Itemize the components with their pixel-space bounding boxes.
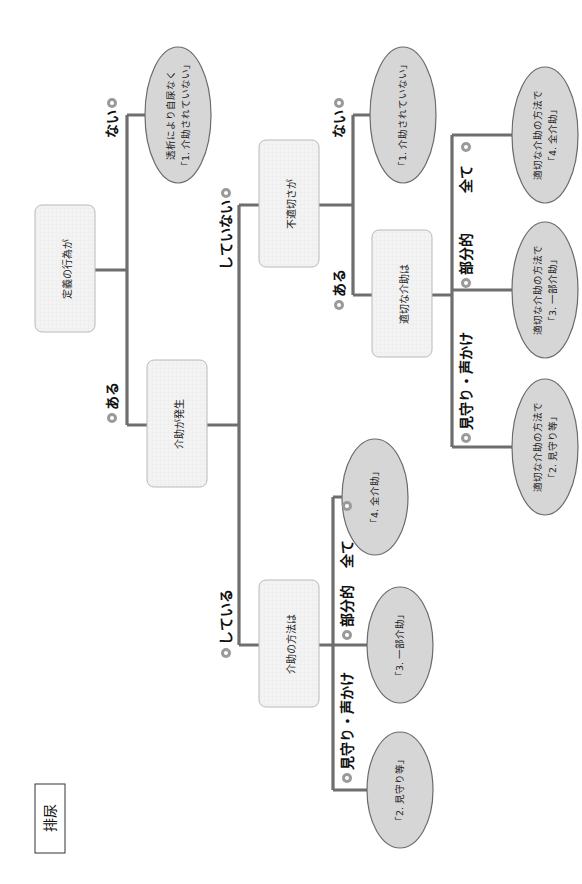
result-line-1: 「3. 一部介助」 [394, 609, 405, 681]
svg-text:部分的: 部分的 [339, 585, 355, 627]
branch-label-q1-no: ない [104, 98, 120, 138]
question-box-q3: 不適切さが [259, 140, 319, 267]
title-box: 排尿 [35, 784, 65, 853]
result-full: 「4. 全介助」 [342, 439, 408, 555]
branch-label-q2-yes: している [218, 589, 234, 658]
connector-q1 [95, 115, 147, 425]
branch-label-q4-watch: 見守り・声かけ [339, 672, 355, 783]
branch-label-q3-no: ない [331, 98, 347, 138]
decision-tree-diagram: 定義の行為が 介助が発生 不適切さが 介助の方法は 適切な介助は 透析により自尿… [0, 0, 582, 884]
result-line-2: 「4. 全介助」 [547, 104, 558, 166]
svg-text:ある: ある [104, 382, 120, 410]
question-text: 不適切さが [285, 179, 297, 229]
result-line-1: 適切な介助の方法で [532, 402, 543, 492]
svg-text:見守り・声かけ: 見守り・声かけ [458, 332, 474, 431]
result-line-1: 「2. 見守り等」 [394, 754, 405, 826]
branch-label-q2-no: していない [218, 188, 234, 270]
result-line-1: 「4. 全介助」 [369, 466, 380, 528]
result-line-1: 適切な介助の方法で [532, 245, 543, 335]
question-box-q4: 介助の方法は [259, 580, 319, 707]
result-dialysis: 透析により自尿なく 「1. 介助されていない」 [145, 47, 211, 183]
svg-text:ある: ある [331, 269, 347, 297]
branch-label-q5-full: 全て [458, 142, 474, 194]
branch-label-q5-watch: 見守り・声かけ [458, 332, 474, 443]
svg-text:ない: ない [104, 110, 120, 138]
result-appropriate-full: 適切な介助の方法で 「4. 全介助」 [512, 67, 578, 203]
svg-text:全て: 全て [339, 540, 355, 569]
result-appropriate-partial: 適切な介助の方法で 「3. 一部介助」 [512, 222, 578, 358]
result-line-1: 透析により自尿なく [165, 70, 176, 160]
question-box-q2: 介助が発生 [147, 360, 207, 487]
result-line-1: 「1. 介助されていない」 [397, 59, 408, 171]
result-line-2: 「2. 見守り等」 [547, 411, 558, 483]
title-text: 排尿 [42, 804, 58, 832]
result-appropriate-watch: 適切な介助の方法で 「2. 見守り等」 [512, 379, 578, 515]
svg-text:見守り・声かけ: 見守り・声かけ [339, 672, 355, 771]
question-text: 介助の方法は [285, 614, 297, 674]
question-box-q1: 定義の行為が [35, 205, 95, 332]
question-box-q5: 適切な介助は [372, 230, 432, 357]
question-text: 適切な介助は [398, 264, 410, 324]
svg-text:全て: 全て [458, 165, 474, 194]
question-text: 介助が発生 [173, 399, 185, 449]
result-partial: 「3. 一部介助」 [367, 587, 433, 703]
svg-text:していない: していない [218, 200, 234, 270]
result-line-1: 適切な介助の方法で [532, 90, 543, 180]
result-not-assisted: 「1. 介助されていない」 [370, 47, 436, 183]
result-line-2: 「1. 介助されていない」 [180, 59, 191, 171]
connector-q2 [207, 205, 259, 645]
question-text: 定義の行為が [61, 239, 73, 299]
branch-label-q3-yes: ある [331, 269, 347, 310]
branch-label-q5-partial: 部分的 [458, 233, 474, 288]
svg-text:部分的: 部分的 [458, 233, 474, 275]
svg-text:している: している [218, 589, 234, 645]
branch-label-q1-yes: ある [104, 382, 120, 423]
connector-q3 [319, 115, 372, 295]
result-line-2: 「3. 一部介助」 [547, 254, 558, 326]
branch-label-q4-partial: 部分的 [339, 585, 355, 640]
svg-text:ない: ない [331, 110, 347, 138]
result-watch: 「2. 見守り等」 [367, 732, 433, 848]
